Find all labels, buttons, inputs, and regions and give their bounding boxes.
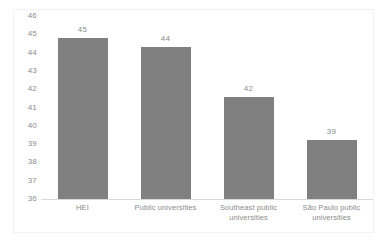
y-axis: 4645444342414039383736: [14, 16, 40, 200]
bar: [58, 38, 108, 199]
bar: [224, 97, 274, 199]
bar-value-label: 44: [161, 35, 170, 43]
category-label: HEI: [44, 203, 121, 213]
y-axis-tick-label: 43: [28, 67, 37, 75]
category-axis-labels: HEIPublic universitiesSoutheast public u…: [41, 203, 373, 239]
bar-value-label: 45: [78, 26, 87, 34]
bar-chart: 4645444342414039383736 45444239 HEIPubli…: [0, 0, 390, 243]
y-axis-tick-label: 42: [28, 85, 37, 93]
bar-value-label: 42: [244, 85, 253, 93]
category-label: São Paulo public universities: [293, 203, 370, 223]
y-axis-tick-label: 46: [28, 12, 37, 20]
y-axis-tick-label: 40: [28, 122, 37, 130]
y-axis-tick-label: 36: [28, 195, 37, 203]
category-label: Southeast public universities: [210, 203, 287, 223]
y-axis-tick-label: 44: [28, 49, 37, 57]
bar: [141, 47, 191, 199]
bar: [307, 140, 357, 199]
category-axis-line: [41, 199, 373, 200]
y-axis-tick-label: 37: [28, 177, 37, 185]
category-label: Public universities: [127, 203, 204, 213]
y-axis-tick-label: 45: [28, 30, 37, 38]
y-axis-tick-label: 39: [28, 140, 37, 148]
bar-value-label: 39: [327, 128, 336, 136]
bars-layer: 45444239: [41, 16, 373, 199]
y-axis-tick-label: 38: [28, 158, 37, 166]
y-axis-tick-label: 41: [28, 104, 37, 112]
